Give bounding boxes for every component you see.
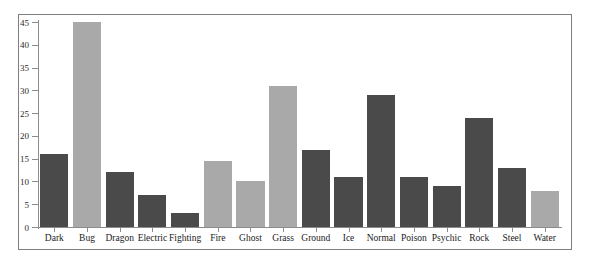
bar-fire — [204, 161, 232, 227]
bar-water — [531, 191, 559, 227]
bar-chart-figure: 051015202530354045 DarkBugDragonElectric… — [0, 0, 589, 259]
bar-poison — [400, 177, 428, 227]
x-label-ghost: Ghost — [239, 234, 262, 244]
x-tick — [218, 228, 219, 232]
y-tick-label: 15 — [20, 155, 29, 164]
bar-electric — [138, 195, 166, 227]
x-label-dragon: Dragon — [105, 234, 134, 244]
x-tick — [250, 228, 251, 232]
bar-psychic — [433, 186, 461, 227]
x-tick — [283, 228, 284, 232]
bar-grass — [269, 86, 297, 227]
x-tick — [152, 228, 153, 232]
x-label-steel: Steel — [502, 234, 521, 244]
x-label-fighting: Fighting — [169, 234, 201, 244]
bar-dark — [40, 154, 68, 227]
y-tick-label: 0 — [25, 223, 30, 232]
x-label-water: Water — [533, 234, 555, 244]
x-tick — [512, 228, 513, 232]
y-tick: 0 — [32, 227, 38, 228]
x-label-bug: Bug — [79, 234, 95, 244]
x-tick — [349, 228, 350, 232]
x-label-normal: Normal — [367, 234, 396, 244]
x-label-dark: Dark — [45, 234, 64, 244]
x-label-poison: Poison — [401, 234, 427, 244]
bar-bug — [73, 22, 101, 227]
x-axis-line — [38, 227, 562, 228]
x-tick — [87, 228, 88, 232]
plot-area — [38, 22, 561, 227]
y-tick-label: 45 — [20, 18, 29, 27]
bar-dragon — [106, 172, 134, 227]
y-tick-label: 35 — [20, 64, 29, 73]
x-label-electric: Electric — [138, 234, 168, 244]
y-tick-label: 25 — [20, 109, 29, 118]
x-label-ice: Ice — [343, 234, 355, 244]
x-tick — [545, 228, 546, 232]
x-label-fire: Fire — [210, 234, 225, 244]
x-tick — [479, 228, 480, 232]
bar-fighting — [171, 213, 199, 227]
x-tick — [316, 228, 317, 232]
y-tick-label: 40 — [20, 41, 29, 50]
y-tick-label: 30 — [20, 86, 29, 95]
x-label-ground: Ground — [301, 234, 330, 244]
y-tick-label: 10 — [20, 177, 29, 186]
bar-ghost — [236, 181, 264, 227]
y-tick-label: 20 — [20, 132, 29, 141]
x-tick — [447, 228, 448, 232]
bar-normal — [367, 95, 395, 227]
x-tick — [120, 228, 121, 232]
x-label-grass: Grass — [272, 234, 294, 244]
bar-steel — [498, 168, 526, 227]
y-tick-label: 5 — [25, 200, 30, 209]
bar-ice — [334, 177, 362, 227]
x-tick — [381, 228, 382, 232]
bar-ground — [302, 150, 330, 227]
x-tick — [54, 228, 55, 232]
bar-rock — [465, 118, 493, 227]
x-label-rock: Rock — [469, 234, 489, 244]
x-label-psychic: Psychic — [432, 234, 462, 244]
x-tick — [414, 228, 415, 232]
x-tick — [185, 228, 186, 232]
